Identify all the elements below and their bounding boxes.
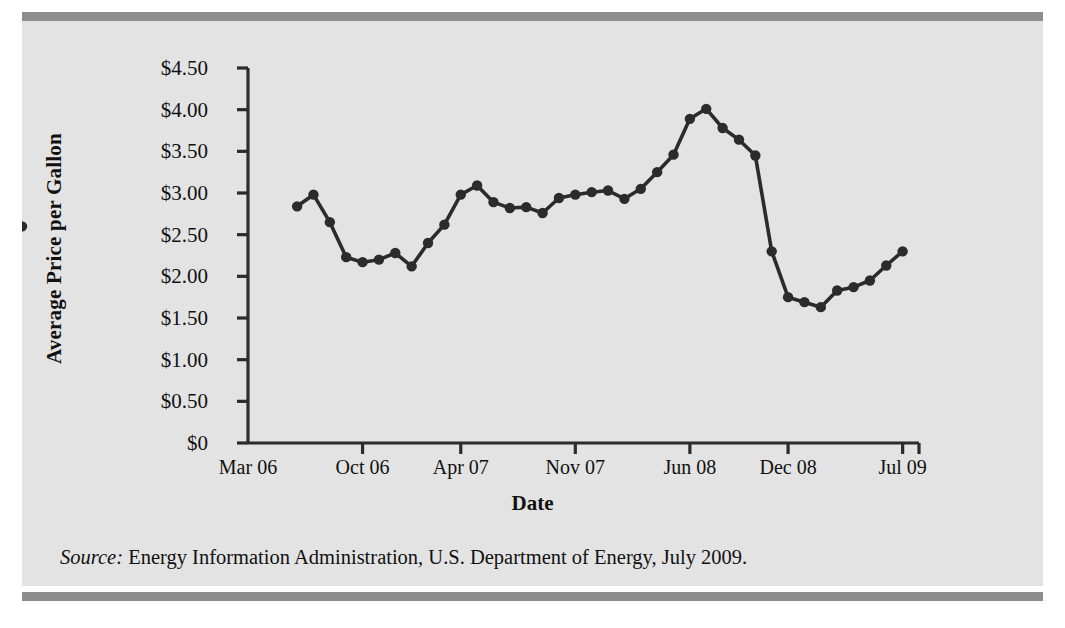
data-point-marker: [439, 219, 449, 229]
data-point-marker: [488, 197, 498, 207]
top-rule: [22, 12, 1043, 21]
data-point-marker: [406, 261, 416, 271]
data-point-marker: [603, 185, 613, 195]
x-axis-tick-label: Oct 06: [336, 456, 390, 479]
source-prefix: Source:: [60, 546, 123, 568]
data-point-marker: [505, 203, 515, 213]
data-point-marker: [799, 297, 809, 307]
data-point-marker: [717, 123, 727, 133]
data-point-marker: [472, 180, 482, 190]
data-point-marker: [848, 282, 858, 292]
data-point-marker: [701, 104, 711, 114]
x-axis-tick-label: Jun 08: [663, 456, 716, 479]
data-point-marker: [308, 189, 318, 199]
source-caption: Source: Energy Information Administratio…: [60, 546, 747, 569]
data-point-marker: [374, 254, 384, 264]
data-point-marker: [570, 189, 580, 199]
x-axis-tick-label: Dec 08: [759, 456, 816, 479]
data-point-marker: [554, 193, 564, 203]
data-point-marker: [22, 221, 27, 231]
data-point-marker: [767, 246, 777, 256]
data-point-marker: [636, 184, 646, 194]
data-point-marker: [521, 202, 531, 212]
x-axis-tick-label: Mar 06: [219, 456, 277, 479]
figure-container: Average Price per Gallon $4.50$4.00$3.50…: [0, 0, 1065, 628]
x-axis-title: Date: [22, 491, 1043, 516]
x-axis-tick-label: Jul 09: [878, 456, 926, 479]
x-axis-tick-label: Nov 07: [546, 456, 605, 479]
data-point-marker: [897, 246, 907, 256]
data-point-marker: [357, 257, 367, 267]
data-point-marker: [537, 208, 547, 218]
plot-area: Average Price per Gallon $4.50$4.00$3.50…: [22, 21, 1043, 586]
data-point-marker: [685, 114, 695, 124]
chart-panel: Average Price per Gallon $4.50$4.00$3.50…: [22, 21, 1043, 586]
data-point-marker: [456, 189, 466, 199]
source-text: Energy Information Administration, U.S. …: [123, 546, 747, 568]
data-point-marker: [881, 260, 891, 270]
data-point-marker: [816, 302, 826, 312]
data-point-marker: [341, 252, 351, 262]
data-point-marker: [652, 167, 662, 177]
data-point-marker: [292, 201, 302, 211]
data-point-marker: [586, 187, 596, 197]
data-point-marker: [668, 149, 678, 159]
data-point-marker: [750, 150, 760, 160]
data-point-marker: [619, 194, 629, 204]
data-line: [297, 109, 903, 307]
bottom-rule: [22, 592, 1043, 601]
x-axis-tick-label: Apr 07: [433, 456, 489, 479]
data-point-marker: [423, 238, 433, 248]
data-point-marker: [832, 285, 842, 295]
data-point-marker: [783, 292, 793, 302]
data-point-marker: [734, 134, 744, 144]
data-point-marker: [390, 248, 400, 258]
data-point-marker: [865, 275, 875, 285]
data-point-marker: [325, 217, 335, 227]
